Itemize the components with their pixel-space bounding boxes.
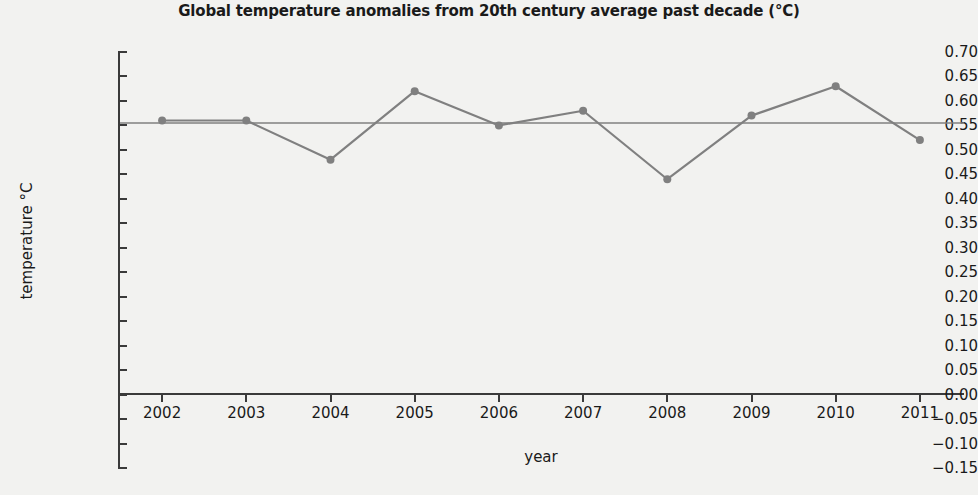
data-point[interactable] [663, 175, 671, 183]
data-point[interactable] [158, 117, 166, 125]
chart-container: Global temperature anomalies from 20th c… [0, 0, 978, 495]
plot-area [0, 0, 978, 495]
data-point[interactable] [242, 117, 250, 125]
series-line-0 [162, 86, 920, 179]
data-point[interactable] [916, 136, 924, 144]
data-point[interactable] [411, 87, 419, 95]
data-point[interactable] [832, 82, 840, 90]
data-point[interactable] [579, 107, 587, 115]
data-point[interactable] [327, 156, 335, 164]
data-point[interactable] [495, 121, 503, 129]
data-point[interactable] [748, 112, 756, 120]
